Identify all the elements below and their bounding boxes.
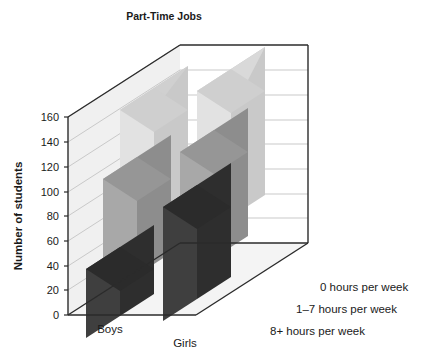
part-time-jobs-3d-bar-chart: Part-Time Jobs bbox=[0, 0, 435, 362]
y-tick-160: 160 bbox=[41, 111, 59, 123]
chart-container: Part-Time Jobs bbox=[0, 0, 435, 362]
y-tick-100: 100 bbox=[41, 186, 59, 198]
chart-title: Part-Time Jobs bbox=[126, 10, 202, 22]
category-label-girls: Girls bbox=[173, 337, 197, 349]
y-tick-20: 20 bbox=[47, 284, 59, 296]
series-label-8-plus-hours: 8+ hours per week bbox=[270, 325, 365, 337]
y-tick-60: 60 bbox=[47, 235, 59, 247]
y-tick-0: 0 bbox=[53, 309, 59, 321]
category-label-boys: Boys bbox=[97, 323, 123, 335]
y-tick-80: 80 bbox=[47, 210, 59, 222]
series-label-0-hours: 0 hours per week bbox=[320, 281, 408, 293]
y-tick-40: 40 bbox=[47, 260, 59, 272]
y-tick-140: 140 bbox=[41, 136, 59, 148]
y-axis-label: Number of students bbox=[12, 162, 24, 271]
y-tick-120: 120 bbox=[41, 161, 59, 173]
series-label-1-7-hours: 1–7 hours per week bbox=[296, 303, 397, 315]
